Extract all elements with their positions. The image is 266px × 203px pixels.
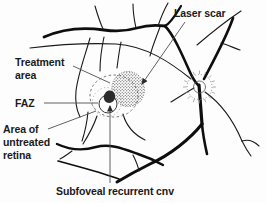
vessel xyxy=(95,6,103,29)
vessel xyxy=(76,38,90,117)
retina-diagram: Laser scar Treatment area FAZ Area of un… xyxy=(0,0,266,203)
vessel xyxy=(199,85,202,124)
vessel xyxy=(123,114,145,140)
label-faz: FAZ xyxy=(15,97,35,110)
vessel xyxy=(133,4,136,28)
vessel xyxy=(171,88,194,102)
leader-lines xyxy=(44,22,185,183)
fundus-drawing xyxy=(0,0,266,203)
vessel xyxy=(202,124,207,154)
vessel xyxy=(221,43,240,50)
label-untreated-line2: untreated xyxy=(3,136,50,149)
leader-untreated-retina xyxy=(48,111,96,129)
subfoveal-cnv-spot xyxy=(104,91,115,103)
vessel xyxy=(117,42,121,68)
vessel xyxy=(150,27,160,56)
leader-treatment-area xyxy=(73,66,110,83)
macula-lesion xyxy=(90,72,144,118)
vessel xyxy=(60,151,72,159)
vessel xyxy=(158,3,168,26)
label-treatment-area-line2: area xyxy=(15,69,64,82)
vessel xyxy=(242,141,251,156)
leader-laser-scar xyxy=(142,22,185,84)
label-treatment-area: Treatment area xyxy=(15,56,64,82)
label-untreated-line1: Area of xyxy=(3,123,50,136)
vessel xyxy=(100,37,104,71)
vessel xyxy=(44,25,165,37)
label-treatment-area-line1: Treatment xyxy=(15,56,64,69)
label-untreated-line3: retina xyxy=(3,149,50,162)
vessel xyxy=(133,155,139,171)
label-untreated-retina: Area of untreated retina xyxy=(3,123,50,162)
vessel xyxy=(117,124,202,182)
label-subfoveal-cnv: Subfoveal recurrent cnv xyxy=(56,185,174,198)
label-laser-scar: Laser scar xyxy=(174,7,226,20)
vessel xyxy=(205,92,242,141)
